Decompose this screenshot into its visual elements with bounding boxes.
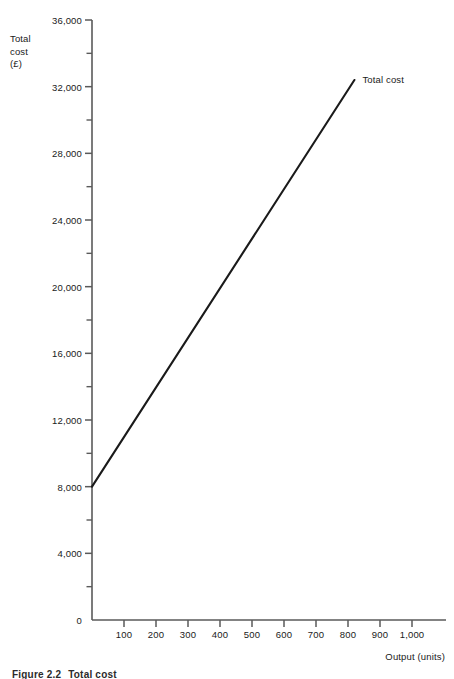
x-axis-tick-label: 600 [276,629,292,640]
y-axis-tick-label: 28,000 [52,148,82,159]
x-axis-tick-label: 900 [372,629,388,640]
y-axis-tick-label: 20,000 [52,281,82,292]
figure-caption: Figure 2.2Total cost [12,669,121,679]
x-axis-title: Output (units) [300,651,445,664]
y-axis-minor-ticks [87,53,93,586]
series-annotation-total-cost: Total cost [362,74,404,85]
figure-caption-number: Figure 2.2 [12,669,61,679]
data-series-group [92,80,354,487]
x-axis-tick-label: 800 [340,629,356,640]
x-axis-tick-label: 300 [180,629,196,640]
figure-container: Total cost (£) 36,00032,00028,00024,0002… [0,0,454,679]
y-axis-tick-label: 0 [77,615,82,626]
y-axis-tick-label: 24,000 [52,215,82,226]
x-axis-tick-label: 500 [244,629,260,640]
x-axis-major-ticks [124,620,412,627]
y-axis-major-ticks [85,20,92,553]
y-axis-tick-label: 36,000 [52,15,82,26]
y-axis-tick-label: 32,000 [52,81,82,92]
x-axis-tick-label: 400 [212,629,228,640]
series-line-total-cost [92,80,354,487]
y-axis-tick-label: 4,000 [57,548,82,559]
y-axis-tick-label: 8,000 [57,481,82,492]
plot-area [0,0,454,679]
x-axis-tick-label: 700 [308,629,324,640]
y-axis-tick-label: 16,000 [52,348,82,359]
x-axis-tick-label: 1,000 [400,629,425,640]
x-axis-tick-label: 200 [148,629,164,640]
y-axis-title: Total cost (£) [10,33,76,71]
y-axis-tick-label: 12,000 [52,415,82,426]
x-axis-tick-label: 100 [116,629,132,640]
figure-caption-text: Total cost [68,669,116,679]
